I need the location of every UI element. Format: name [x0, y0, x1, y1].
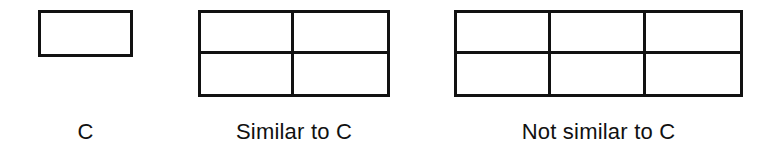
caption-similar: Similar to C [198, 118, 390, 146]
cell-r2c2 [551, 54, 645, 95]
cell-r2c1 [201, 54, 294, 95]
similarity-diagram: C Similar to C Not similar to C [0, 0, 782, 154]
cell-r1c1 [41, 13, 130, 54]
caption-reference: C [38, 118, 133, 146]
cell-r2c1 [457, 54, 551, 95]
grid-2x2-similar [198, 10, 390, 97]
cell-r1c1 [201, 13, 294, 54]
cell-r2c2 [294, 54, 387, 95]
cell-r1c2 [294, 13, 387, 54]
cell-r1c2 [551, 13, 645, 54]
cell-r2c3 [646, 54, 740, 95]
caption-not-similar: Not similar to C [454, 118, 743, 146]
grid-3x2-not-similar [454, 10, 743, 97]
cell-r1c3 [646, 13, 740, 54]
rectangle-c [38, 10, 133, 57]
cell-r1c1 [457, 13, 551, 54]
